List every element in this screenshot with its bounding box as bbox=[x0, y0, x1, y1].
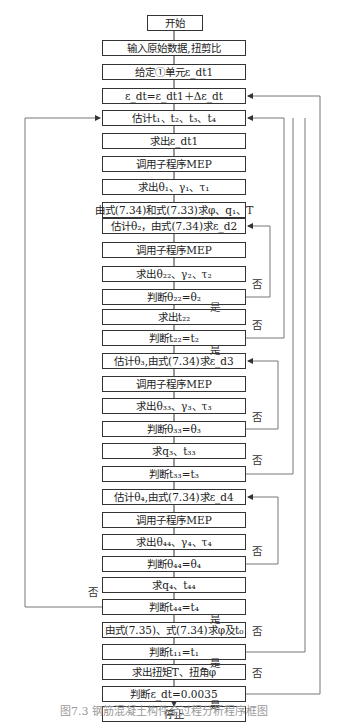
flow-node-calc-phi: 由式(7.34)和式(7.33)求φ、q₁、T bbox=[102, 202, 246, 218]
flow-node-calc-theta44: 求出θ₄₄、γ₄、τ₄ bbox=[102, 534, 246, 550]
flow-node-mep1: 调用子程序MEP bbox=[102, 156, 246, 172]
no-label: 否 bbox=[252, 546, 262, 557]
flow-node-given: 给定①单元ε_dt1 bbox=[102, 64, 246, 80]
figure-caption: 图7.3 钢筋混凝土构件全过程分析程序框图 bbox=[60, 702, 330, 720]
no-label: 否 bbox=[252, 412, 262, 423]
no-label: 否 bbox=[252, 668, 262, 679]
no-label: 否 bbox=[88, 587, 98, 598]
flow-node-calc-theta33: 求出θ₃₃、γ₃、τ₃ bbox=[102, 398, 246, 414]
flow-node-judge-t1: 判断t₁₁=t₁ bbox=[102, 644, 246, 660]
flow-node-judge-t3: 判断t₃₃=t₃ bbox=[102, 466, 246, 482]
flow-node-judge-t2: 判断t₂₂=t₂ bbox=[102, 330, 246, 346]
flow-node-est-t: 估计t₁、t₂、t₃、t₄ bbox=[102, 110, 246, 126]
yes-label: 是 bbox=[210, 302, 220, 313]
flow-node-est-theta2: 估计θ₂，由式(7.34)求ε_d2 bbox=[102, 218, 246, 234]
no-label: 否 bbox=[252, 279, 262, 290]
flow-node-judge-eps: 判断ε_dt=0.0035 bbox=[102, 686, 246, 702]
flow-node-judge-t4: 判断t₄₄=t₄ bbox=[102, 599, 246, 615]
flow-node-mep3: 调用子程序MEP bbox=[102, 376, 246, 392]
flow-node-eps-update: ε_dt=ε_dt1＋Δε_dt bbox=[102, 88, 246, 104]
flow-node-calc-theta1: 求出θ₁、γ₁、τ₁ bbox=[102, 179, 246, 195]
flow-node-calc-t0: 由式(7.35)、式(7.34)求φ及t₀ bbox=[102, 622, 246, 638]
yes-label: 是 bbox=[210, 345, 220, 356]
flow-node-judge-theta3: 判断θ₃₃=θ₃ bbox=[102, 421, 246, 437]
no-label: 否 bbox=[252, 455, 262, 466]
flow-node-calc-eps: 求出ε_dt1 bbox=[102, 133, 246, 149]
flow-node-input: 输入原始数据,扭剪比 bbox=[102, 40, 246, 56]
flow-node-judge-theta2: 判断θ₂₂=θ₂ bbox=[102, 289, 246, 305]
flow-node-calc-q4: 求q₄、t₄₄ bbox=[102, 577, 246, 593]
flow-node-judge-theta4: 判断θ₄₄=θ₄ bbox=[102, 556, 246, 572]
flow-node-mep4: 调用子程序MEP bbox=[102, 512, 246, 528]
yes-label: 是 bbox=[210, 658, 220, 669]
flow-node-est-theta4: 估计θ₄,由式(7.34)求ε_d4 bbox=[102, 489, 246, 505]
flow-node-calc-q3: 求q₃、t₃₃ bbox=[102, 443, 246, 459]
flow-node-calc-t22: 求出t₂₂ bbox=[102, 309, 246, 325]
flow-node-start: 开始 bbox=[147, 15, 203, 31]
no-label: 否 bbox=[252, 320, 262, 331]
yes-label: 是 bbox=[210, 614, 220, 625]
flow-node-calc-torque: 求出扭矩T、扭角φ bbox=[102, 664, 246, 680]
no-label: 否 bbox=[252, 626, 262, 637]
flow-node-mep2: 调用子程序MEP bbox=[102, 242, 246, 258]
flow-node-calc-theta22: 求出θ₂₂、γ₂、τ₂ bbox=[102, 266, 246, 282]
flow-node-est-theta3: 估计θ₃,由式(7.34)求ε_d3 bbox=[102, 353, 246, 369]
